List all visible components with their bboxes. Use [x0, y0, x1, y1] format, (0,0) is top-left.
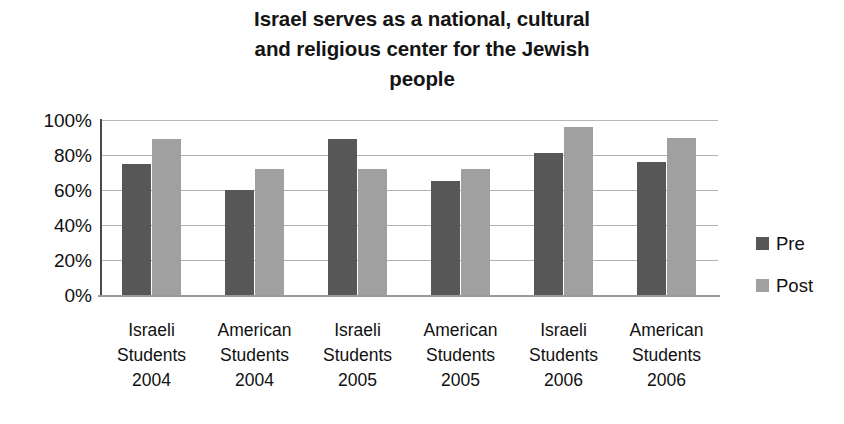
- x-axis-category-label-line: 2004: [203, 368, 306, 393]
- bar-group: [225, 120, 284, 295]
- bar-post[interactable]: [564, 127, 593, 295]
- x-axis-category-label-line: Students: [512, 343, 615, 368]
- bar-pre[interactable]: [431, 181, 460, 295]
- bar-pre[interactable]: [122, 164, 151, 295]
- y-axis-tick-label: 80%: [6, 146, 92, 165]
- plot-area: [100, 120, 718, 295]
- x-axis-category-label-line: Students: [409, 343, 512, 368]
- bar-post[interactable]: [152, 139, 181, 295]
- bar-group: [431, 120, 490, 295]
- x-axis-line: [98, 295, 720, 297]
- y-axis-tick-label: 20%: [6, 251, 92, 270]
- legend-item-pre[interactable]: Pre: [756, 222, 844, 264]
- x-axis-category-label-line: Students: [615, 343, 718, 368]
- y-axis-tick-label: 40%: [6, 216, 92, 235]
- plot-top-border: [100, 120, 718, 121]
- x-axis-category-label-line: 2005: [306, 368, 409, 393]
- bar-group: [328, 120, 387, 295]
- y-axis-tick-labels: 100%80%60%40%20%0%: [0, 0, 92, 424]
- x-axis-category-label-line: Israeli: [512, 318, 615, 343]
- y-axis-tick-label: 60%: [6, 181, 92, 200]
- y-axis-line: [100, 119, 102, 297]
- legend-swatch-post-icon: [756, 279, 769, 292]
- x-axis-category-label-line: Israeli: [306, 318, 409, 343]
- legend-label-post: Post: [776, 276, 813, 295]
- x-axis-category-label-line: 2004: [100, 368, 203, 393]
- x-axis-category-label-line: 2006: [512, 368, 615, 393]
- legend-swatch-pre-icon: [756, 237, 769, 250]
- bar-post[interactable]: [358, 169, 387, 295]
- y-axis-tick-label: 100%: [6, 111, 92, 130]
- gridline: [100, 190, 718, 191]
- x-axis-category-label: AmericanStudents2004: [203, 318, 306, 393]
- y-axis-tick-label: 0%: [6, 286, 92, 305]
- bar-pre[interactable]: [225, 190, 254, 295]
- x-axis-category-label-line: American: [409, 318, 512, 343]
- x-axis-category-label-line: 2005: [409, 368, 512, 393]
- x-axis-category-label-line: Israeli: [100, 318, 203, 343]
- bar-group: [637, 120, 696, 295]
- legend-label-pre: Pre: [776, 234, 805, 253]
- bar-post[interactable]: [667, 138, 696, 296]
- x-axis-category-label: IsraeliStudents2006: [512, 318, 615, 393]
- bar-chart: Israel serves as a national, cultural an…: [0, 0, 844, 424]
- x-axis-category-label-line: Students: [306, 343, 409, 368]
- bar-post[interactable]: [255, 169, 284, 295]
- bar-group: [534, 120, 593, 295]
- bar-group: [122, 120, 181, 295]
- x-axis-category-label: IsraeliStudents2004: [100, 318, 203, 393]
- bar-post[interactable]: [461, 169, 490, 295]
- chart-title-line-2: and religious center for the Jewish: [162, 34, 682, 64]
- x-axis-category-label: IsraeliStudents2005: [306, 318, 409, 393]
- chart-title-line-1: Israel serves as a national, cultural: [162, 4, 682, 34]
- bar-pre[interactable]: [637, 162, 666, 295]
- chart-legend: Pre Post: [756, 222, 844, 306]
- x-axis-category-label: AmericanStudents2005: [409, 318, 512, 393]
- bar-pre[interactable]: [534, 153, 563, 295]
- legend-item-post[interactable]: Post: [756, 264, 844, 306]
- x-axis-category-label-line: 2006: [615, 368, 718, 393]
- x-axis-category-label-line: American: [615, 318, 718, 343]
- gridline: [100, 155, 718, 156]
- gridline: [100, 260, 718, 261]
- gridline: [100, 225, 718, 226]
- bar-pre[interactable]: [328, 139, 357, 295]
- x-axis-category-label-line: American: [203, 318, 306, 343]
- x-axis-category-label-line: Students: [203, 343, 306, 368]
- chart-title: Israel serves as a national, cultural an…: [162, 4, 682, 94]
- x-axis-category-label-line: Students: [100, 343, 203, 368]
- chart-title-line-3: people: [162, 64, 682, 94]
- x-axis-category-label: AmericanStudents2006: [615, 318, 718, 393]
